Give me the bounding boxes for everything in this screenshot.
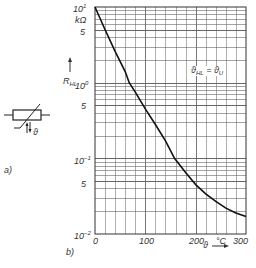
x-tick-0: 0 (93, 237, 98, 246)
chart-plot (0, 0, 256, 268)
panel-label-a: a) (4, 166, 12, 175)
y-tick-10e0: 100 (75, 80, 88, 91)
y-unit-label: kΩ (75, 16, 86, 25)
x-tick-200: 200 (189, 237, 204, 246)
resistance-curve (95, 7, 246, 217)
plot-frame (95, 7, 246, 234)
thermistor-symbol-icon (4, 104, 50, 133)
grid-lines (95, 7, 246, 234)
y-tick-5-low: 5 (81, 180, 86, 189)
x-tick-100: 100 (139, 237, 154, 246)
panel-label-b: b) (66, 248, 74, 257)
y-tick-10e-2: 10−2 (74, 230, 91, 241)
x-unit-label: °C (216, 237, 226, 246)
symbol-theta-label: ϑ (33, 128, 38, 137)
y-tick-5-top: 5 (80, 28, 85, 37)
y-axis-arrowhead (68, 57, 72, 62)
x-tick-300: 300 (233, 237, 248, 246)
y-tick-10e1: 101 (73, 3, 86, 14)
x-axis-title: ϑ (203, 241, 208, 250)
condition-annotation: ϑHL = ϑU (190, 66, 224, 76)
y-tick-5-mid: 5 (81, 102, 86, 111)
y-tick-10e-1: 10−1 (74, 155, 91, 166)
